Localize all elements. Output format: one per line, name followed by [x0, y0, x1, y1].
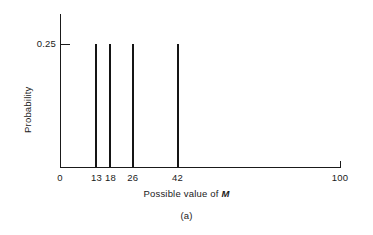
x-axis-line [60, 167, 341, 168]
y-axis-title: Probability [22, 86, 33, 133]
bar [109, 44, 111, 167]
x-tick-mark [340, 161, 341, 167]
x-tick-label: 0 [57, 172, 62, 183]
bar [95, 44, 97, 167]
x-tick-label: 26 [127, 172, 138, 183]
figure-caption: (a) [0, 210, 373, 221]
x-tick-mark [60, 161, 61, 167]
probability-chart-figure: Probability 0.25 013182642100 Possible v… [0, 0, 373, 235]
x-tick-label: 13 [91, 172, 102, 183]
bar [177, 44, 179, 167]
x-axis-title: Possible value of M [0, 188, 373, 199]
x-tick-label: 42 [172, 172, 183, 183]
bar [132, 44, 134, 167]
y-axis-line [60, 14, 61, 168]
x-tick-label: 100 [332, 172, 348, 183]
x-tick-label: 18 [105, 172, 116, 183]
x-axis-title-variable: M [221, 188, 229, 199]
y-tick-label: 0.25 [37, 38, 56, 49]
x-axis-title-prefix: Possible value of [143, 188, 221, 199]
y-tick-mark [61, 44, 70, 45]
